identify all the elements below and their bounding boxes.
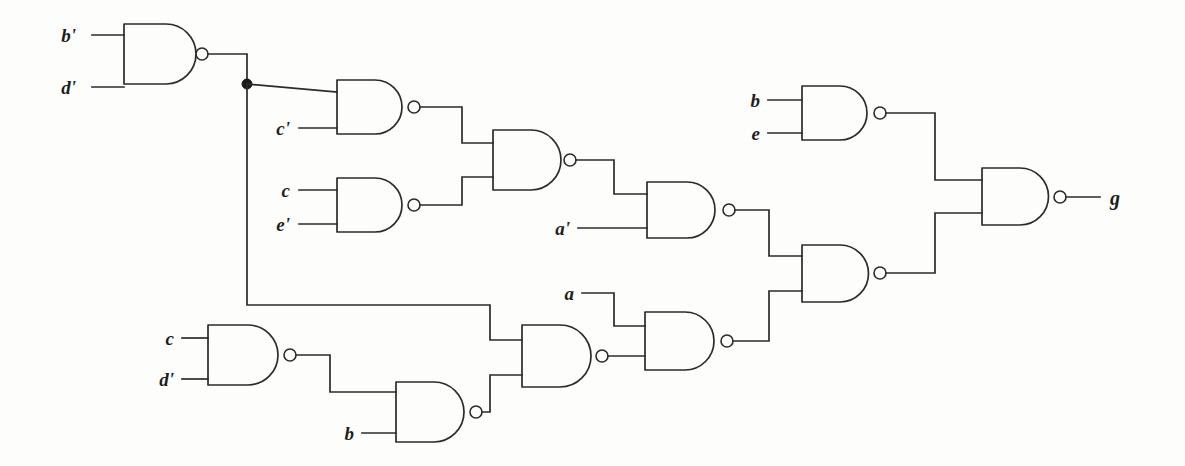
label-input-e: e xyxy=(752,123,761,144)
gate-shape xyxy=(124,24,196,84)
gate-nand-b-e xyxy=(802,86,886,140)
invert-bubble-icon xyxy=(596,350,608,362)
gate-shape xyxy=(645,312,714,370)
gate-nand-prefinal xyxy=(802,245,886,302)
label-input-c-1: c xyxy=(282,180,291,201)
wire-b-to-merge-bot xyxy=(482,375,522,412)
gate-shape xyxy=(802,245,868,302)
wire-bd-to-cprime-gate xyxy=(247,84,337,92)
gate-shape xyxy=(802,86,867,140)
invert-bubble-icon xyxy=(284,349,296,361)
gate-shape xyxy=(396,382,464,442)
invert-bubble-icon xyxy=(564,154,576,166)
gate-nand-c-d-prime xyxy=(208,325,296,385)
gate-nand-output-g xyxy=(982,168,1066,225)
gate-nand-a xyxy=(645,312,733,370)
invert-bubble-icon xyxy=(470,406,482,418)
gate-nand-merge-lower xyxy=(522,325,608,387)
wire-prefinal-to-final xyxy=(886,213,982,273)
label-input-b-prime-1: b' xyxy=(61,25,76,46)
label-input-c-prime: c' xyxy=(276,118,290,139)
label-input-e-prime: e' xyxy=(276,214,290,235)
gate-shape xyxy=(493,130,561,190)
invert-bubble-icon xyxy=(874,267,886,279)
gate-shape xyxy=(982,168,1049,225)
gate-shape xyxy=(647,182,715,238)
gate-nand-c-prime xyxy=(337,80,420,134)
label-input-a: a xyxy=(565,283,575,304)
wire-cprime-out-to-merge xyxy=(420,107,493,143)
label-output-g: g xyxy=(1109,187,1120,210)
wire-aprime-to-prefinal xyxy=(735,210,802,256)
invert-bubble-icon xyxy=(723,204,735,216)
gate-shape xyxy=(208,325,278,385)
gate-nand-c-e-prime xyxy=(337,178,420,232)
circuit-canvas: b' d' c' c e' a' a b e c d' b g xyxy=(0,0,1185,466)
gate-nand-merge-upper xyxy=(493,130,576,190)
gate-shape xyxy=(522,325,591,387)
gate-shape xyxy=(337,80,402,134)
wire-merge-top-to-aprime xyxy=(576,160,647,194)
invert-bubble-icon xyxy=(1054,191,1066,203)
invert-bubble-icon xyxy=(196,48,208,60)
label-input-a-prime: a' xyxy=(555,218,570,239)
label-input-d-prime-1: d' xyxy=(61,77,76,98)
wire-cd-to-b-gate xyxy=(296,355,396,392)
wire-be-to-final xyxy=(886,113,982,180)
invert-bubble-icon xyxy=(408,101,420,113)
label-input-c-2: c xyxy=(166,328,175,349)
wire-a-to-prefinal xyxy=(733,291,802,341)
gate-nand-b-prime-d-prime xyxy=(124,24,208,84)
invert-bubble-icon xyxy=(874,107,886,119)
label-input-d-prime-2: d' xyxy=(159,369,174,390)
label-input-b-bottom: b xyxy=(345,423,355,444)
invert-bubble-icon xyxy=(721,335,733,347)
wire-input-a xyxy=(582,293,645,326)
gate-shape xyxy=(337,178,402,232)
logic-circuit-figure: b' d' c' c e' a' a b e c d' b g xyxy=(0,0,1185,466)
invert-bubble-icon xyxy=(408,199,420,211)
wire-gate-bd-out xyxy=(208,54,247,84)
gate-nand-b xyxy=(396,382,482,442)
gate-nand-a-prime xyxy=(647,182,735,238)
label-input-b-top: b xyxy=(751,90,761,111)
wire-ce-out-to-merge xyxy=(420,177,493,205)
